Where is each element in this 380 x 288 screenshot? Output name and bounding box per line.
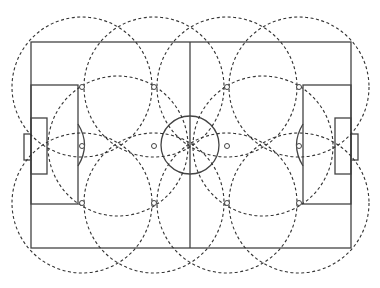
sensor-node-icon <box>80 85 85 90</box>
sensor-node-icon <box>152 85 157 90</box>
sensor-node-icon <box>225 85 230 90</box>
sensor-node-icon <box>297 201 302 206</box>
sensor-node-icon <box>225 201 230 206</box>
sensor-node-icon <box>152 201 157 206</box>
sensor-node-icon <box>80 201 85 206</box>
right-goal-area <box>335 118 351 174</box>
sensor-node-icon <box>225 144 230 149</box>
soccer-pitch <box>24 42 358 248</box>
sensor-node-icon <box>152 144 157 149</box>
right-goal <box>351 134 358 160</box>
sensor-node-icon <box>80 144 85 149</box>
sensor-node-icon <box>297 85 302 90</box>
coverage-circle <box>48 76 188 216</box>
coverage-circle <box>193 76 333 216</box>
sensor-node-icon <box>297 144 302 149</box>
left-penalty-area <box>31 85 78 204</box>
pitch-coverage-diagram <box>0 0 380 288</box>
right-penalty-area <box>303 85 351 204</box>
